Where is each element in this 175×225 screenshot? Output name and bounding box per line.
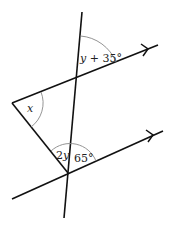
diagram-canvas: y + 35° x 2y 65° <box>0 0 175 225</box>
geometry-figure: y + 35° x 2y 65° <box>0 0 175 225</box>
transversal-line <box>64 12 82 218</box>
lower-right-angle-label: 65° <box>74 152 94 165</box>
lower-parallel-arrow-icon <box>146 130 153 142</box>
lower-parallel-line <box>12 131 163 199</box>
triangle-side <box>12 103 68 173</box>
triangle-angle-label: x <box>27 102 34 115</box>
lower-left-angle-label: 2y <box>56 149 70 162</box>
upper-angle-label: y + 35° <box>79 52 122 65</box>
